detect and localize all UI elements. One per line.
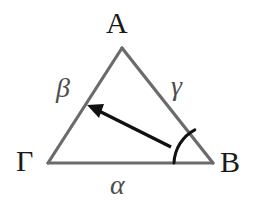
vertex-label-b: B bbox=[220, 147, 240, 177]
side-label-beta: β bbox=[56, 74, 70, 102]
direction-arrow-shaft bbox=[99, 111, 171, 147]
geometry-figure: A Γ B α β γ bbox=[0, 0, 255, 216]
triangle-edge-beta bbox=[48, 48, 122, 163]
vertex-label-gamma: Γ bbox=[16, 146, 33, 176]
vertex-label-a: A bbox=[106, 8, 128, 38]
direction-arrow-head bbox=[87, 104, 104, 118]
side-label-alpha: α bbox=[110, 171, 125, 199]
side-label-gamma: γ bbox=[171, 72, 182, 100]
